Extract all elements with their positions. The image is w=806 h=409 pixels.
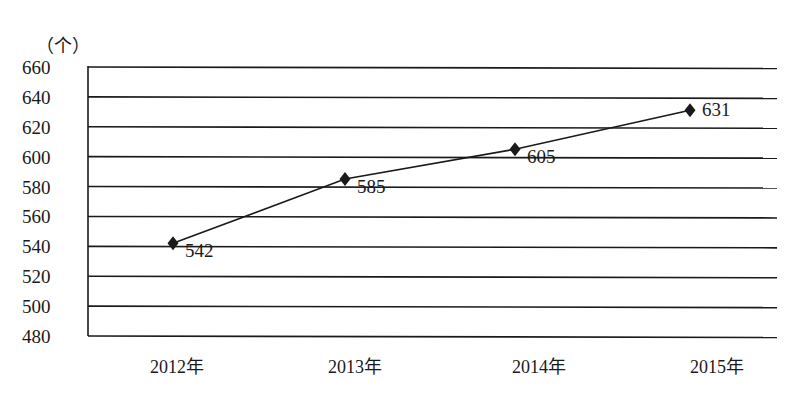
series-line xyxy=(173,110,690,243)
y-tick-label: 640 xyxy=(22,87,51,108)
x-category-label: 2015年 xyxy=(690,357,744,377)
y-axis-tick-labels: 480500520540560580600620640660 xyxy=(22,57,51,347)
gridline xyxy=(88,127,777,128)
data-label: 542 xyxy=(185,240,214,261)
gridline xyxy=(88,97,777,99)
gridline xyxy=(88,336,777,338)
y-tick-label: 520 xyxy=(22,266,51,287)
series-markers xyxy=(168,103,696,250)
y-tick-label: 500 xyxy=(22,296,51,317)
gridline xyxy=(88,157,777,159)
gridline xyxy=(88,216,777,218)
y-tick-label: 540 xyxy=(22,236,51,257)
y-tick-label: 560 xyxy=(22,206,51,227)
line-chart: （个） 480500520540560580600620640660 2012年… xyxy=(0,0,806,409)
gridlines xyxy=(88,67,777,338)
x-axis-category-labels: 2012年2013年2014年2015年 xyxy=(150,357,744,377)
y-tick-label: 480 xyxy=(22,326,51,347)
gridline xyxy=(88,187,777,189)
gridline xyxy=(88,276,777,278)
diamond-marker xyxy=(168,236,179,250)
y-tick-label: 620 xyxy=(22,117,51,138)
y-tick-label: 600 xyxy=(22,147,51,168)
x-category-label: 2014年 xyxy=(512,357,566,377)
data-label: 631 xyxy=(702,99,731,120)
x-category-label: 2013年 xyxy=(328,357,382,377)
diamond-marker xyxy=(510,142,521,156)
y-axis-unit-label: （个） xyxy=(36,35,90,56)
data-labels: 542585605631 xyxy=(185,99,731,261)
diamond-marker xyxy=(340,172,351,186)
data-label: 585 xyxy=(357,176,386,197)
gridline xyxy=(88,67,777,69)
y-tick-label: 660 xyxy=(22,57,51,78)
y-tick-label: 580 xyxy=(22,177,51,198)
diamond-marker xyxy=(685,103,696,117)
data-label: 605 xyxy=(527,146,556,167)
x-category-label: 2012年 xyxy=(150,357,204,377)
gridline xyxy=(88,306,777,308)
